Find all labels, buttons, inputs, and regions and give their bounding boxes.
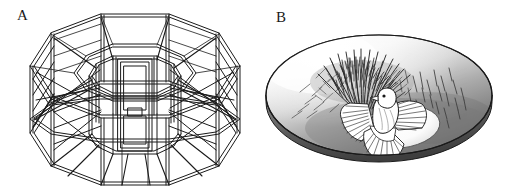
centre-door-panel (118, 59, 152, 151)
panel-b-nest: B (250, 0, 508, 187)
panel-a-aviary: A (0, 0, 258, 187)
bird-eye (382, 94, 385, 97)
centre-column-posts (89, 56, 181, 134)
nest-dish-drawing (250, 0, 508, 187)
panel-b-label: B (276, 10, 287, 25)
upper-diagonal-braces (34, 18, 236, 120)
aviary-line-drawing (0, 0, 258, 187)
panel-a-label: A (17, 8, 28, 23)
figure-container: A (0, 0, 508, 187)
bird-head (378, 88, 396, 108)
upper-right-bay-lines (169, 24, 216, 72)
upper-left-bay-lines (54, 24, 101, 72)
